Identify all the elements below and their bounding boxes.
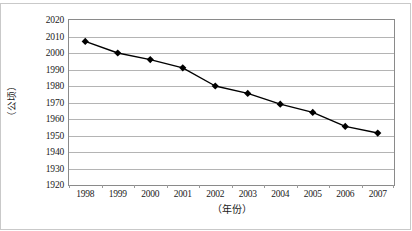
series-polyline: [85, 41, 378, 133]
data-point-marker: [114, 49, 121, 56]
y-tick-label: 1970: [4, 98, 64, 108]
data-point-marker: [277, 101, 284, 108]
data-series-line: [69, 20, 394, 185]
y-tick-label: 1990: [4, 65, 64, 75]
data-point-marker: [342, 123, 349, 130]
y-tick-label: 2020: [4, 15, 64, 25]
data-point-marker: [309, 109, 316, 116]
x-tick-label: 2007: [358, 188, 398, 200]
y-tick-label: 1920: [4, 180, 64, 190]
y-tick-label: 2010: [4, 32, 64, 42]
y-tick-label: 1940: [4, 147, 64, 157]
series-markers: [82, 38, 382, 137]
data-point-marker: [212, 82, 219, 89]
y-tick-label: 1950: [4, 131, 64, 141]
plot-area: [68, 19, 395, 186]
y-axis-tick-labels: 2020201020001990198019701960195019401930…: [0, 0, 64, 231]
y-tick-label: 1960: [4, 114, 64, 124]
y-tick-label: 1930: [4, 164, 64, 174]
x-axis-tick-labels: 1998199920002001200220032004200520062007: [68, 188, 395, 202]
data-point-marker: [147, 56, 154, 63]
y-tick-label: 2000: [4, 48, 64, 58]
data-point-marker: [374, 129, 381, 136]
data-point-marker: [179, 64, 186, 71]
chart-figure: （公顷） 20202010200019901980197019601950194…: [0, 0, 412, 231]
data-point-marker: [82, 38, 89, 45]
data-point-marker: [244, 90, 251, 97]
x-axis-title: （年份）: [68, 203, 395, 216]
y-tick-label: 1980: [4, 81, 64, 91]
